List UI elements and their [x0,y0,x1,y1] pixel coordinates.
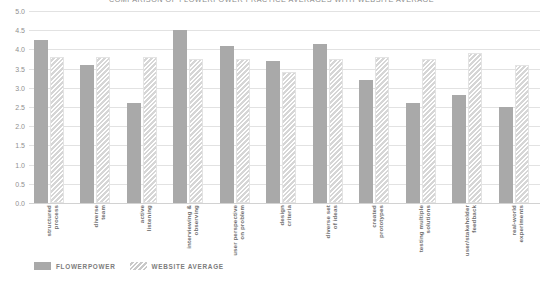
x-axis-category-label-text: interviewing &observing [184,205,199,249]
x-axis-category-label: user perspectiveon problem [216,205,260,259]
bar-website-average [143,57,157,203]
bar-website-average [236,59,250,203]
y-axis-tick-label: 4.5 [1,27,25,34]
x-axis-category-label: diverse setof ideas [309,205,353,259]
hatched-swatch [130,262,147,270]
y-axis-tick-label: 0.0 [1,200,25,207]
y-axis-tick-label: 5.0 [1,8,25,15]
bar-website-average [282,72,296,203]
legend-item[interactable]: WEBSITE AVERAGE [130,262,224,270]
bar-group [215,11,261,203]
x-axis-category-label: user/stakeholderfeedback [448,205,492,259]
solid-gray-swatch [34,262,51,270]
bar-group [29,11,75,203]
bar-group [494,11,540,203]
y-axis-tick-label: 0.5 [1,181,25,188]
bar-group [261,11,307,203]
y-axis-tick-label: 3.5 [1,66,25,73]
x-axis-category-label-text: user/stakeholderfeedback [463,205,478,256]
y-axis-tick-label: 1.5 [1,142,25,149]
y-axis-tick-label: 1.0 [1,162,25,169]
bar-flowerpower [173,30,187,203]
bar-website-average [375,57,389,203]
bar-flowerpower [452,95,466,203]
bar-group [308,11,354,203]
x-axis-category-label-text: createdprototypes [370,205,385,238]
chart-title: COMPARISON OF FLOWERPOWER PRACTICE AVERA… [0,0,543,6]
x-axis-category-labels: structuredprocessdiverseteamactivelisten… [29,205,540,261]
bar-website-average [50,57,64,203]
bar-website-average [329,59,343,203]
x-axis-category-label-text: user perspectiveon problem [231,205,246,256]
bar-flowerpower [499,107,513,203]
x-axis-category-label-text: designcriteria [277,205,292,226]
x-axis-category-label: structuredprocess [30,205,74,259]
bar-flowerpower [127,103,141,203]
y-axis-tick-label: 2.5 [1,104,25,111]
bar-website-average [422,59,436,203]
legend-item[interactable]: FLOWERPOWER [34,262,116,270]
legend-item-label: FLOWERPOWER [56,263,116,270]
bar-chart-figure: COMPARISON OF FLOWERPOWER PRACTICE AVERA… [0,0,543,283]
bar-group [168,11,214,203]
bar-website-average [189,59,203,203]
bar-group [354,11,400,203]
legend-item-label: WEBSITE AVERAGE [152,263,224,270]
x-axis-category-label: designcriteria [263,205,307,259]
bar-group [401,11,447,203]
bar-website-average [515,65,529,203]
bar-flowerpower [359,80,373,203]
x-axis-category-label: activelistening [123,205,167,259]
chart-legend: FLOWERPOWERWEBSITE AVERAGE [34,262,224,270]
x-axis-category-label: testing multiplesolutions [402,205,446,259]
gridline [29,203,540,204]
x-axis-category-label-text: activelistening [138,205,153,231]
x-axis-category-label: createdprototypes [355,205,399,259]
x-axis-category-label-text: diverse setof ideas [324,205,339,238]
bar-flowerpower [266,61,280,203]
y-axis-tick-label: 3.0 [1,85,25,92]
bar-group [122,11,168,203]
bar-flowerpower [406,103,420,203]
x-axis-category-label: real-worldexperiments [495,205,539,259]
x-axis-category-label-text: testing multiplesolutions [416,205,431,252]
x-axis-category-label-text: structuredprocess [45,205,60,237]
bar-website-average [468,53,482,203]
x-axis-category-label: interviewing &observing [170,205,214,259]
plot-area [29,11,540,203]
bar-flowerpower [80,65,94,203]
y-axis-tick-label: 2.0 [1,123,25,130]
bar-flowerpower [313,44,327,203]
y-axis-tick-label: 4.0 [1,46,25,53]
bar-group [447,11,493,203]
bar-flowerpower [34,40,48,203]
bar-flowerpower [220,46,234,203]
x-axis-category-label-text: diverseteam [91,205,106,227]
bar-group [75,11,121,203]
bar-series-layer [29,11,540,203]
bar-website-average [96,57,110,203]
x-axis-category-label: diverseteam [77,205,121,259]
x-axis-category-label-text: real-worldexperiments [509,205,524,243]
